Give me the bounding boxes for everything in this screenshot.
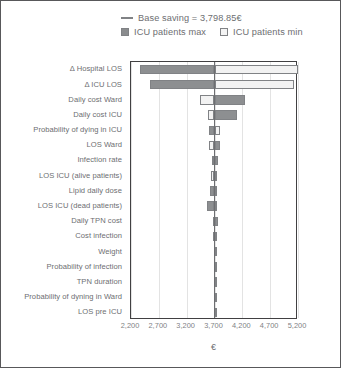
x-axis-tick-label: 2,700 <box>148 321 167 330</box>
empty-square-swatch-icon <box>220 28 228 36</box>
legend-row-series: ICU patients max ICU patients min <box>121 27 303 37</box>
y-axis-label: TPN duration <box>0 277 126 286</box>
y-axis-label: Weight <box>0 247 126 256</box>
y-axis-label: LOS ICU (dead patients) <box>0 201 126 210</box>
y-axis-label: Probability of dyning in Ward <box>0 292 126 301</box>
x-axis-tick-labels: 2,2002,7003,2003,7004,2004,7005,200 <box>1 321 341 335</box>
y-axis-label: Lipid daily dose <box>0 186 126 195</box>
bar-segment-min <box>215 80 294 89</box>
x-axis-tick-label: 3,200 <box>176 321 195 330</box>
y-axis-label: LOS ICU (alive patients) <box>0 171 126 180</box>
y-axis-label: Daily cost Ward <box>0 95 126 104</box>
bar-segment-max <box>140 65 215 74</box>
legend-entry-icu-max: ICU patients max <box>121 27 206 37</box>
bar-segment-max <box>215 110 238 119</box>
plot-area <box>130 61 297 319</box>
filled-square-swatch-icon <box>121 28 129 36</box>
y-axis-label: Daily cost ICU <box>0 110 126 119</box>
legend-label-icu-min: ICU patients min <box>233 27 303 37</box>
bar-segment-min <box>215 126 221 135</box>
x-axis-tick-label: 4,200 <box>232 321 251 330</box>
bar-segment-min <box>200 95 214 104</box>
bar-segment-min <box>215 65 299 74</box>
gridline <box>298 62 299 318</box>
bar-segment-max <box>215 95 246 104</box>
y-axis-label: Probability of dying in ICU <box>0 125 126 134</box>
tornado-chart-figure: Base saving = 3,798.85€ ICU patients max… <box>0 0 341 368</box>
legend-entry-icu-min: ICU patients min <box>220 27 303 37</box>
x-axis-tick-label: 3,700 <box>204 321 223 330</box>
x-axis-tick-label: 4,700 <box>260 321 279 330</box>
x-axis-title: € <box>130 342 297 352</box>
legend-label-icu-max: ICU patients max <box>134 27 206 37</box>
y-axis-label: Cost infection <box>0 231 126 240</box>
y-axis-labels: Δ Hospital LOSΔ ICU LOSDaily cost WardDa… <box>1 61 126 319</box>
legend-label-base-saving: Base saving = 3,798.85€ <box>138 13 242 23</box>
y-axis-label: Infection rate <box>0 155 126 164</box>
y-axis-label: Probability of infection <box>0 262 126 271</box>
x-axis-tick-label: 5,200 <box>288 321 307 330</box>
y-axis-label: Daily TPN cost <box>0 216 126 225</box>
chart-legend: Base saving = 3,798.85€ ICU patients max… <box>121 13 331 37</box>
legend-entry-base-saving: Base saving = 3,798.85€ <box>121 13 242 23</box>
y-axis-label: LOS Ward <box>0 140 126 149</box>
y-axis-label: LOS pre ICU <box>0 307 126 316</box>
y-axis-label: Δ ICU LOS <box>0 80 126 89</box>
base-saving-line-icon <box>121 17 133 19</box>
bar-segment-max <box>150 80 215 89</box>
base-saving-reference-line <box>214 62 215 318</box>
y-axis-label: Δ Hospital LOS <box>0 64 126 73</box>
x-axis-tick-label: 2,200 <box>121 321 140 330</box>
legend-row-base-saving: Base saving = 3,798.85€ <box>121 13 242 23</box>
